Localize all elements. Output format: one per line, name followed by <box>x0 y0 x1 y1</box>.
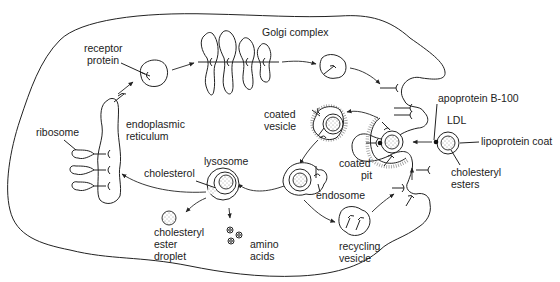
label-recycling-2: vesicle <box>339 252 371 264</box>
ldl-particle <box>434 132 459 154</box>
label-cholesteryl-esters-1: cholesteryl <box>451 166 501 178</box>
coated-pit <box>366 118 408 167</box>
label-amino-2: acids <box>250 250 275 262</box>
lysosome <box>207 168 239 200</box>
label-apoprotein: apoprotein B-100 <box>438 92 519 104</box>
label-ribosome: ribosome <box>36 126 79 138</box>
label-ldl: LDL <box>447 114 466 126</box>
label-receptor-1: receptor <box>84 42 123 54</box>
label-cholesteryl-esters-2: esters <box>451 178 480 190</box>
ldl-pathway-diagram: Golgi complex receptor protein endoplasm… <box>0 0 560 282</box>
label-er-2: reticulum <box>126 130 169 142</box>
amino-acid-particles <box>227 227 242 244</box>
label-droplet-2: ester <box>154 238 178 250</box>
label-coated-pit-1: coated <box>339 157 371 169</box>
label-droplet-3: droplet <box>154 250 186 262</box>
label-lipoprotein-coat: lipoprotein coat <box>481 135 552 147</box>
label-cholesterol: cholesterol <box>144 167 195 179</box>
label-golgi: Golgi complex <box>262 26 329 38</box>
label-amino-1: amino <box>250 238 279 250</box>
cholesteryl-ester-droplet <box>162 211 176 225</box>
label-coated-vesicle-2: vesicle <box>264 120 296 132</box>
label-er-1: endoplasmic <box>126 118 185 130</box>
label-coated-pit-2: pit <box>361 169 372 181</box>
recycling-vesicle <box>339 207 370 236</box>
label-receptor-2: protein <box>87 54 119 66</box>
label-recycling-1: recycling <box>339 240 381 252</box>
label-droplet-1: cholesteryl <box>154 226 204 238</box>
label-coated-vesicle-1: coated <box>264 108 296 120</box>
label-endosome: endosome <box>316 189 365 201</box>
golgi-complex <box>198 31 279 95</box>
label-lysosome: lysosome <box>204 155 249 167</box>
coated-vesicle <box>312 106 346 140</box>
